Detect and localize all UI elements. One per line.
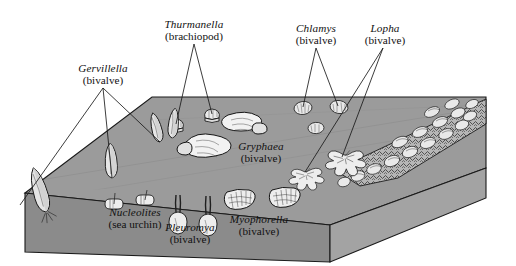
taxon-group-gervillella: (bivalve) <box>72 74 134 86</box>
genus-name-gervillella: Gervillella <box>72 62 134 74</box>
genus-name-gryphaea: Gryphaea <box>232 140 290 152</box>
taxon-group-myophorella: (bivalve) <box>224 225 294 237</box>
genus-name-lopha: Lopha <box>361 22 409 34</box>
label-pleuromya: Pleuromya(bivalve) <box>160 221 220 245</box>
genus-name-thurmanella: Thurmanella <box>155 18 233 30</box>
genus-name-myophorella: Myophorella <box>224 213 294 225</box>
taxon-group-gryphaea: (bivalve) <box>232 152 290 164</box>
label-gryphaea: Gryphaea(bivalve) <box>232 140 290 164</box>
label-lopha: Lopha(bivalve) <box>361 22 409 46</box>
taxon-group-thurmanella: (brachiopod) <box>155 30 233 42</box>
label-thurmanella: Thurmanella(brachiopod) <box>155 18 233 42</box>
block-diagram-figure: Gervillella(bivalve)Thurmanella(brachiop… <box>0 0 516 266</box>
label-chlamys: Chlamys(bivalve) <box>289 22 343 46</box>
genus-name-pleuromya: Pleuromya <box>160 221 220 233</box>
label-gervillella: Gervillella(bivalve) <box>72 62 134 86</box>
taxon-group-lopha: (bivalve) <box>361 34 409 46</box>
genus-name-chlamys: Chlamys <box>289 22 343 34</box>
genus-name-nucleolites: Nucleolites <box>99 206 171 218</box>
label-myophorella: Myophorella(bivalve) <box>224 213 294 237</box>
taxon-group-pleuromya: (bivalve) <box>160 233 220 245</box>
taxon-group-chlamys: (bivalve) <box>289 34 343 46</box>
